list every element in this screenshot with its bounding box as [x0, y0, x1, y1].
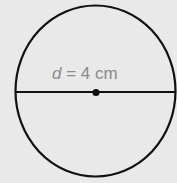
center-point [92, 89, 99, 96]
diameter-label: d = 4 cm [52, 64, 118, 84]
equals-sign: = [61, 64, 80, 83]
diameter-value: 4 [81, 64, 90, 83]
diameter-unit: cm [90, 64, 117, 83]
circle-diagram [0, 0, 177, 183]
